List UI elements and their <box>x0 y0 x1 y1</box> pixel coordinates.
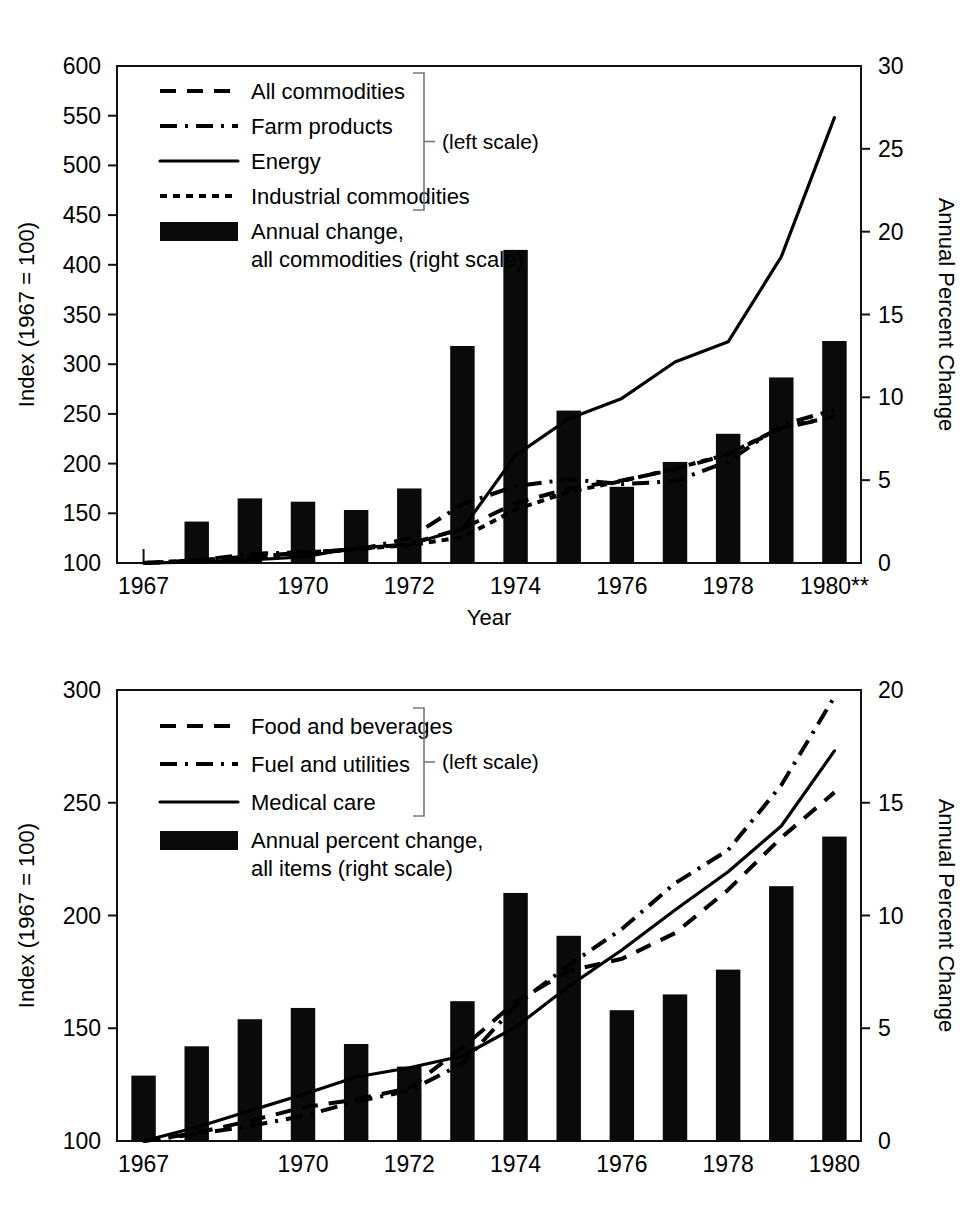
x-axis-tick-label: 1974 <box>490 1151 541 1177</box>
legend-scale-note: (left scale) <box>442 130 539 153</box>
left-axis-tick-label: 450 <box>63 202 101 228</box>
bar <box>610 487 634 563</box>
right-axis-tick-label: 25 <box>878 136 904 162</box>
legend-label: Annual change, <box>251 219 404 244</box>
right-axis-tick-label: 15 <box>878 302 904 328</box>
bar <box>291 1008 315 1141</box>
left-axis-tick-label: 150 <box>63 500 101 526</box>
x-axis-tick-label: 1978 <box>703 573 754 599</box>
legend-label: Annual percent change, <box>251 828 483 853</box>
bar <box>344 510 368 563</box>
left-axis-tick-label: 300 <box>63 351 101 377</box>
legend-label: Industrial commodities <box>251 184 470 209</box>
left-axis-tick-label: 400 <box>63 252 101 278</box>
left-axis-tick-label: 500 <box>63 152 101 178</box>
legend-label: All commodities <box>251 79 405 104</box>
right-axis-title: Annual Percent Change <box>934 198 959 432</box>
legend-scale-note: (left scale) <box>442 750 539 773</box>
x-axis-tick-label: 1976 <box>596 1151 647 1177</box>
x-axis-tick-label: 1967 <box>118 573 169 599</box>
legend-label: Farm products <box>251 114 393 139</box>
chart-consumer-price-index: 1001502002503000510152019671970197219741… <box>0 630 964 1211</box>
x-axis-tick-label: 1972 <box>384 1151 435 1177</box>
right-axis-tick-label: 5 <box>878 1015 891 1041</box>
x-axis-tick-label: 1967 <box>118 1151 169 1177</box>
legend-bar-swatch <box>160 222 238 241</box>
x-axis-title: Year <box>467 605 511 630</box>
bar <box>184 522 208 563</box>
x-axis-tick-label: 1980 <box>809 1151 860 1177</box>
chart-bottom-svg: 1001502002503000510152019671970197219741… <box>0 630 964 1211</box>
left-axis-tick-label: 100 <box>63 1128 101 1154</box>
left-axis-tick-label: 200 <box>63 903 101 929</box>
right-axis-tick-label: 5 <box>878 467 891 493</box>
bar <box>610 1010 634 1141</box>
bar <box>344 1044 368 1141</box>
right-axis-tick-label: 30 <box>878 53 904 79</box>
legend-bar-swatch <box>160 831 238 850</box>
bar <box>769 377 793 563</box>
bar <box>663 994 687 1141</box>
x-axis-tick-label: 1970 <box>277 573 328 599</box>
legend-label: all commodities (right scale) <box>251 247 524 272</box>
right-axis-tick-label: 15 <box>878 790 904 816</box>
x-axis-tick-label: 1976 <box>596 573 647 599</box>
left-axis-tick-label: 250 <box>63 401 101 427</box>
right-axis-tick-label: 0 <box>878 550 891 576</box>
legend-label: Medical care <box>251 790 376 815</box>
legend-label: Food and beverages <box>251 714 453 739</box>
left-axis-tick-label: 150 <box>63 1015 101 1041</box>
figure-page: 1001502002503003504004505005506000510152… <box>0 0 964 1211</box>
right-axis-tick-label: 10 <box>878 384 904 410</box>
left-axis-title: Index (1967 = 100) <box>14 823 39 1008</box>
chart-top-svg: 1001502002503003504004505005506000510152… <box>0 0 964 630</box>
x-axis-tick-label: 1970 <box>277 1151 328 1177</box>
bar <box>503 893 527 1141</box>
x-axis-tick-label: 1978 <box>703 1151 754 1177</box>
x-axis-tick-label: 1972 <box>384 573 435 599</box>
bar <box>822 341 846 563</box>
bar <box>450 1001 474 1141</box>
bar <box>822 837 846 1141</box>
left-axis-tick-label: 300 <box>63 677 101 703</box>
left-axis-tick-label: 350 <box>63 302 101 328</box>
right-axis-tick-label: 0 <box>878 1128 891 1154</box>
right-axis-tick-label: 20 <box>878 677 904 703</box>
legend-label: all items (right scale) <box>251 856 453 881</box>
x-axis-tick-label: 1980** <box>800 573 869 599</box>
left-axis-tick-label: 200 <box>63 451 101 477</box>
left-axis-tick-label: 250 <box>63 790 101 816</box>
bar <box>131 1076 155 1141</box>
legend-label: Fuel and utilities <box>251 752 410 777</box>
left-axis-tick-label: 600 <box>63 53 101 79</box>
bar <box>769 886 793 1141</box>
x-axis-tick-label: 1974 <box>490 573 541 599</box>
legend-label: Energy <box>251 149 321 174</box>
right-axis-title: Annual Percent Change <box>934 799 959 1033</box>
left-axis-title: Index (1967 = 100) <box>14 222 39 407</box>
right-axis-tick-label: 20 <box>878 219 904 245</box>
bar <box>397 488 421 563</box>
right-axis-tick-label: 10 <box>878 903 904 929</box>
chart-producer-price-index: 1001502002503003504004505005506000510152… <box>0 0 964 630</box>
bar <box>716 970 740 1141</box>
left-axis-tick-label: 100 <box>63 550 101 576</box>
bar <box>397 1067 421 1141</box>
left-axis-tick-label: 550 <box>63 103 101 129</box>
